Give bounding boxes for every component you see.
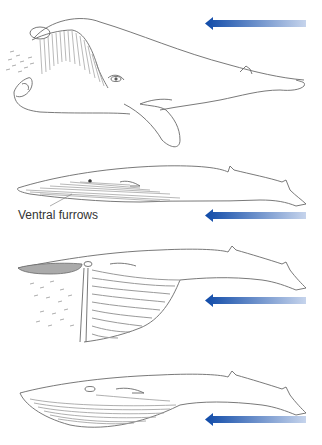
swim-direction-arrow	[205, 17, 306, 30]
swim-direction-arrow	[205, 413, 306, 426]
panel-rorqual-engulf	[0, 240, 322, 365]
panel-rorqual-closed: Ventral furrows	[0, 160, 322, 235]
prey-marks	[30, 281, 74, 326]
ventral-furrows-label: Ventral furrows	[18, 208, 98, 222]
rorqual-closed-illustration	[0, 160, 322, 235]
water-flow-marks	[6, 51, 34, 72]
label-leader-line	[50, 194, 72, 206]
panel-right-whale	[0, 0, 322, 160]
swim-direction-arrow	[205, 209, 306, 222]
whale-feeding-diagram: Ventral furrows	[0, 0, 322, 445]
panel-rorqual-after	[0, 365, 322, 435]
figure-caption-cropped	[6, 438, 318, 445]
swim-direction-arrow	[205, 294, 306, 307]
